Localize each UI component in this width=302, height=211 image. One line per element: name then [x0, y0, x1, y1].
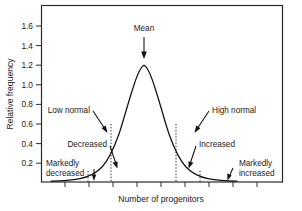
y-tick-0_2: 0.2 [21, 158, 33, 168]
markedly-increased-label-line1: Markedly [239, 159, 273, 168]
decreased-label: Decreased [67, 140, 107, 149]
chart-svg: 1.6 1.4 1.2 1.0 0.8 0.6 0.4 0.2 [0, 0, 302, 211]
y-tick-1_2: 1.2 [21, 60, 33, 70]
markedly-decreased-label-line2: decreased [46, 169, 85, 178]
y-axis-title: Relative frequency [5, 58, 15, 130]
y-tick-1_6: 1.6 [21, 21, 33, 31]
y-tick-0_4: 0.4 [21, 139, 33, 149]
markedly-decreased-label-line1: Markedly [46, 159, 80, 168]
markedly-increased-label-line2: increased [239, 169, 275, 178]
x-axis-title: Number of progenitors [118, 194, 204, 204]
y-tick-1_0: 1.0 [21, 80, 33, 90]
low-normal-label: Low normal [48, 106, 91, 115]
increased-label: Increased [199, 140, 235, 149]
high-normal-label: High normal [212, 106, 256, 115]
y-tick-0_6: 0.6 [21, 119, 33, 129]
distribution-figure: 1.6 1.4 1.2 1.0 0.8 0.6 0.4 0.2 [0, 0, 302, 211]
mean-label: Mean [134, 24, 155, 33]
y-tick-1_4: 1.4 [21, 41, 33, 51]
y-tick-0_8: 0.8 [21, 99, 33, 109]
